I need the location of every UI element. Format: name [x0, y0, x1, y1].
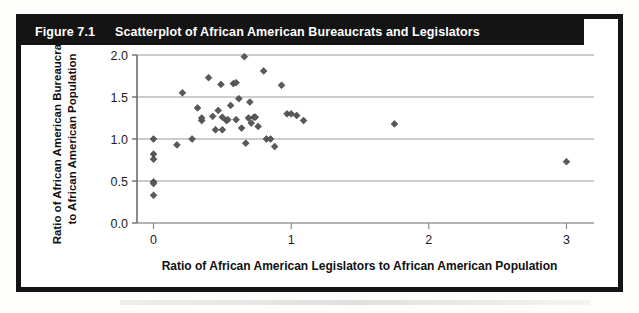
figure-title: Scatterplot of African American Bureaucr…: [115, 25, 480, 39]
x-tick-label: 2: [425, 233, 432, 247]
data-point-marker: [260, 68, 267, 75]
y-tick-label: 0.5: [111, 175, 128, 189]
figure-container: Figure 7.1 Scatterplot of African Americ…: [16, 14, 623, 292]
data-point-marker: [278, 82, 285, 89]
y-tick-label: 2.0: [111, 49, 128, 63]
data-point-marker: [300, 117, 307, 124]
data-point-marker: [238, 125, 245, 132]
figure-header-bar: Figure 7.1 Scatterplot of African Americ…: [21, 19, 618, 45]
figure-number: Figure 7.1: [35, 25, 95, 39]
data-point-marker: [150, 156, 157, 163]
data-point-marker: [218, 81, 225, 88]
y-tick-label: 1.0: [111, 133, 128, 147]
data-point-marker: [179, 89, 186, 96]
data-point-marker: [563, 158, 570, 165]
data-point-marker: [219, 126, 226, 133]
scatterplot-svg: 0.00.51.01.52.00123Ratio of African Amer…: [21, 45, 618, 287]
x-tick-label: 1: [288, 233, 295, 247]
data-point-marker: [391, 120, 398, 127]
chart-plot-area: 0.00.51.01.52.00123Ratio of African Amer…: [21, 45, 618, 287]
scan-artifact: [120, 300, 590, 305]
x-tick-label: 3: [563, 233, 570, 247]
y-axis-title-line1: Ratio of African American Bureaucrats: [51, 45, 63, 244]
data-point-marker: [150, 192, 157, 199]
data-point-marker: [242, 140, 249, 147]
data-point-marker: [241, 53, 248, 60]
y-tick-label: 1.5: [111, 91, 128, 105]
data-point-marker: [227, 102, 234, 109]
data-point-marker: [215, 107, 222, 114]
data-point-marker: [233, 116, 240, 123]
data-point-marker: [209, 113, 216, 120]
data-point-marker: [194, 105, 201, 112]
data-point-marker: [255, 123, 262, 130]
x-axis-title: Ratio of African American Legislators to…: [162, 259, 558, 273]
x-tick-label: 0: [150, 233, 157, 247]
data-point-marker: [288, 110, 295, 117]
data-point-marker: [205, 74, 212, 81]
y-axis-title-line2: to African American Population: [66, 53, 78, 224]
data-point-marker: [235, 95, 242, 102]
header-notch: [584, 19, 618, 45]
data-point-marker: [150, 136, 157, 143]
data-point-marker: [271, 143, 278, 150]
data-point-marker: [189, 136, 196, 143]
y-tick-label: 0.0: [111, 217, 128, 231]
data-point-marker: [174, 141, 181, 148]
data-point-marker: [246, 99, 253, 106]
data-point-marker: [293, 112, 300, 119]
data-point-marker: [212, 126, 219, 133]
data-point-marker: [267, 136, 274, 143]
